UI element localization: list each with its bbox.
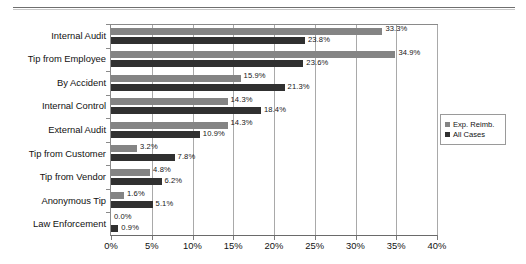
bar-value-label: 4.8% <box>153 166 171 174</box>
value-axis: 0%5%10%15%20%25%30%35%40% <box>0 240 526 254</box>
x-tick-mark <box>193 236 194 240</box>
bar-value-label: 21.3% <box>288 83 310 91</box>
legend-label: All Cases <box>453 130 485 139</box>
bar-value-label: 23.6% <box>306 59 328 67</box>
bar-value-label: 14.3% <box>231 96 253 104</box>
bar-value-label: 3.2% <box>140 143 158 151</box>
bar-all-cases <box>111 178 162 185</box>
bar-group: 0.0%0.9% <box>111 213 437 237</box>
bar-group: 14.3%10.9% <box>111 119 437 143</box>
bar-all-cases <box>111 154 175 161</box>
category-label: Internal Audit <box>2 31 106 41</box>
bar-exp-reimb <box>111 145 137 152</box>
x-tick-mark <box>233 236 234 240</box>
category-label: External Audit <box>2 125 106 135</box>
x-tick-mark <box>437 236 438 240</box>
bar-all-cases <box>111 225 118 232</box>
bar-value-label: 0.0% <box>114 213 132 221</box>
legend-item[interactable]: All Cases <box>445 130 502 139</box>
bar-exp-reimb <box>111 98 228 105</box>
legend-item[interactable]: Exp. Reimb. <box>445 120 502 129</box>
bar-group: 15.9%21.3% <box>111 72 437 96</box>
bar-value-label: 1.6% <box>127 190 145 198</box>
bar-value-label: 6.2% <box>165 177 183 185</box>
bar-group: 34.9%23.6% <box>111 49 437 73</box>
x-tick-mark <box>315 236 316 240</box>
category-label: Anonymous Tip <box>2 196 106 206</box>
x-tick-mark <box>111 236 112 240</box>
bar-all-cases <box>111 37 305 44</box>
category-label: Tip from Employee <box>2 54 106 64</box>
bar-group: 4.8%6.2% <box>111 166 437 190</box>
bar-value-label: 18.4% <box>264 106 286 114</box>
x-tick-label: 0% <box>104 240 118 251</box>
category-label: Internal Control <box>2 101 106 111</box>
x-tick-label: 40% <box>428 240 447 251</box>
bar-value-label: 33.3% <box>385 25 407 33</box>
category-label: Tip from Customer <box>2 149 106 159</box>
bar-all-cases <box>111 201 153 208</box>
bar-value-label: 5.1% <box>156 200 174 208</box>
x-tick-mark <box>356 236 357 240</box>
bar-exp-reimb <box>111 169 150 176</box>
x-tick-label: 10% <box>183 240 202 251</box>
bar-exp-reimb <box>111 75 241 82</box>
x-tick-mark <box>152 236 153 240</box>
x-tick-label: 35% <box>387 240 406 251</box>
x-tick-mark <box>274 236 275 240</box>
chart-legend: Exp. Reimb.All Cases <box>440 114 506 145</box>
category-label: Tip from Vendor <box>2 172 106 182</box>
bar-group: 1.6%5.1% <box>111 190 437 214</box>
gridline <box>437 25 438 235</box>
bar-all-cases <box>111 60 303 67</box>
x-tick-mark <box>396 236 397 240</box>
x-tick-label: 20% <box>265 240 284 251</box>
category-axis: Internal AuditTip from EmployeeBy Accide… <box>0 24 106 236</box>
bar-value-label: 15.9% <box>244 72 266 80</box>
grouped-bar-chart: Internal AuditTip from EmployeeBy Accide… <box>0 0 526 264</box>
category-label: By Accident <box>2 78 106 88</box>
bar-value-label: 0.9% <box>121 224 139 232</box>
x-tick-label: 25% <box>305 240 324 251</box>
x-tick-label: 5% <box>145 240 159 251</box>
category-label: Law Enforcement <box>2 219 106 229</box>
bar-group: 33.3%23.8% <box>111 25 437 49</box>
bar-group: 3.2%7.8% <box>111 143 437 167</box>
bar-group: 14.3%18.4% <box>111 96 437 120</box>
bar-exp-reimb <box>111 192 124 199</box>
x-tick-label: 30% <box>346 240 365 251</box>
bar-value-label: 23.8% <box>308 36 330 44</box>
bar-exp-reimb <box>111 28 382 35</box>
legend-label: Exp. Reimb. <box>453 120 494 129</box>
bar-value-label: 14.3% <box>231 119 253 127</box>
x-tick-label: 15% <box>224 240 243 251</box>
bar-all-cases <box>111 84 285 91</box>
plot-area: 33.3%23.8%34.9%23.6%15.9%21.3%14.3%18.4%… <box>110 24 438 236</box>
bar-all-cases <box>111 107 261 114</box>
bar-exp-reimb <box>111 51 395 58</box>
bar-value-label: 7.8% <box>178 153 196 161</box>
legend-swatch-icon <box>445 122 450 127</box>
bar-exp-reimb <box>111 122 228 129</box>
bar-all-cases <box>111 131 200 138</box>
bar-value-label: 10.9% <box>203 130 225 138</box>
legend-swatch-icon <box>445 132 450 137</box>
bar-value-label: 34.9% <box>398 49 420 57</box>
